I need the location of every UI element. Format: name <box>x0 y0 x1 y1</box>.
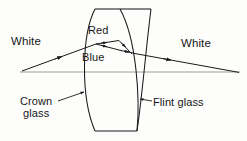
label-blue-ray: Blue <box>82 52 104 64</box>
diagram-canvas <box>0 0 247 141</box>
emergent-white-ray <box>133 53 239 72</box>
blue-ray-arrowhead <box>101 45 107 47</box>
red-ray-arrowhead <box>101 42 107 43</box>
label-white-emergent: White <box>181 37 211 49</box>
flint-glass-leader-line <box>140 99 152 101</box>
blue-ray-to-flint-arrowhead <box>124 51 129 52</box>
red-ray-to-flint-arrowhead <box>122 43 126 47</box>
label-crown-glass: Crown glass <box>20 96 52 119</box>
label-white-incident: White <box>11 35 41 47</box>
flint-glass-outer-surface <box>137 9 151 131</box>
crown-flint-cemented-interface <box>120 9 138 131</box>
label-crown-glass-line1: Crown <box>20 96 52 108</box>
label-red-ray: Red <box>88 25 108 37</box>
label-flint-glass: Flint glass <box>153 97 204 109</box>
crown-glass-leader-line <box>58 92 84 101</box>
label-crown-glass-line2: glass <box>20 108 52 120</box>
blue-ray-internal <box>96 44 121 51</box>
lens-ray-diagram-figure: White White Red Blue Crown glass Flint g… <box>0 0 247 141</box>
incident-ray-arrowhead <box>55 56 62 59</box>
red-ray-internal <box>96 41 119 45</box>
